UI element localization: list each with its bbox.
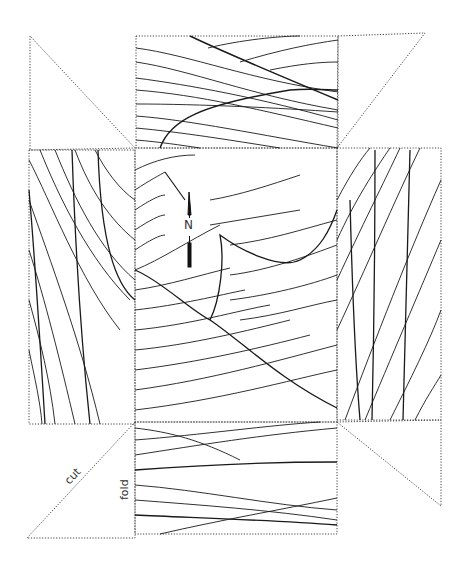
fold-lines [27, 33, 441, 538]
triangle-bottom-right [337, 420, 441, 506]
triangle-top-left [30, 36, 135, 150]
north-label: N [184, 218, 193, 232]
fold-label: fold [118, 479, 131, 500]
triangle-top-right [337, 33, 425, 148]
contour-lines [29, 36, 441, 534]
